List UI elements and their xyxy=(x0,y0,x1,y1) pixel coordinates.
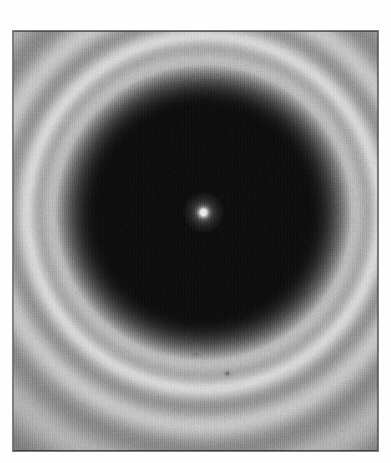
diffraction-pattern-canvas xyxy=(13,31,378,451)
figure-page xyxy=(0,0,391,463)
caption-area xyxy=(0,0,391,31)
diffraction-plate xyxy=(13,31,378,451)
